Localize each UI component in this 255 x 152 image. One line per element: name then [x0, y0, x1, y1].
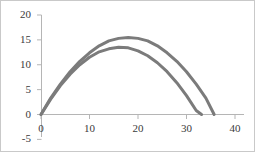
x-axis-tick-label: 10 [77, 123, 103, 134]
x-axis-tick-label: 30 [174, 123, 200, 134]
y-axis-tick-label: 10 [5, 59, 31, 70]
axes [41, 15, 244, 137]
x-axis-tick-label: 20 [125, 123, 151, 134]
y-axis-tick-label: 15 [5, 34, 31, 45]
x-axis-tick-label: 0 [28, 123, 54, 134]
y-axis-tick-label: 5 [5, 84, 31, 95]
y-axis-tick-label: 0 [5, 109, 31, 120]
x-axis-tick-label: 40 [222, 123, 248, 134]
data-series-line [41, 47, 202, 114]
x-axis-ticks [41, 115, 235, 120]
chart-container: 20151050-5 010203040 [0, 0, 255, 152]
y-axis-tick-label: 20 [5, 9, 31, 20]
data-series-group [41, 37, 214, 114]
y-axis-tick-label: -5 [5, 133, 31, 144]
y-axis-ticks [37, 15, 42, 139]
